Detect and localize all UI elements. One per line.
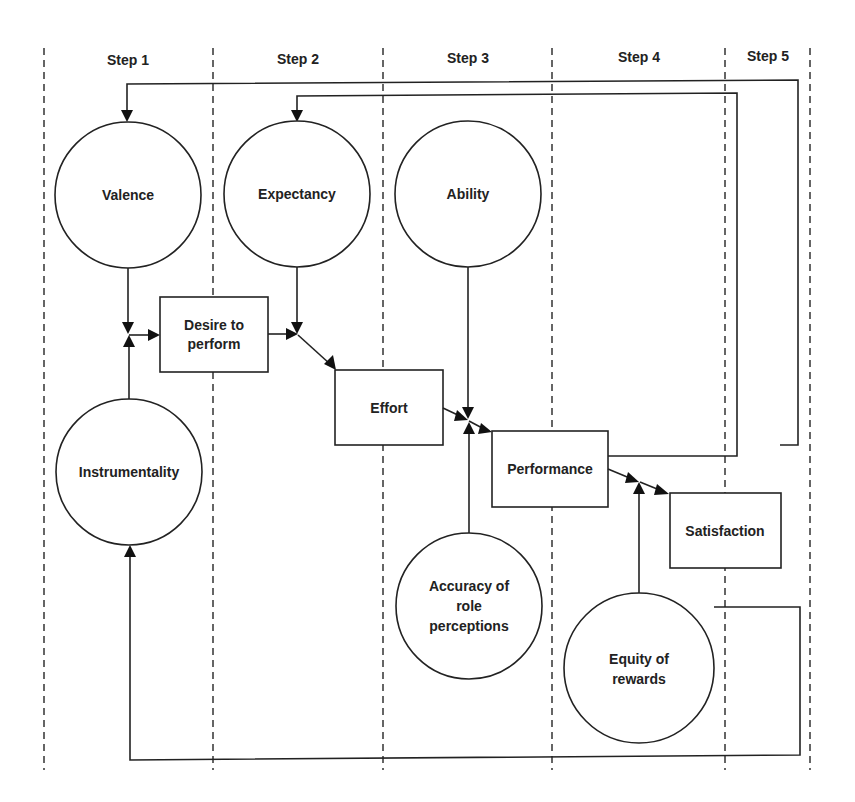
node-ability: Ability (395, 121, 541, 267)
node-desire-label-2: perform (188, 336, 241, 352)
node-expectancy: Expectancy (224, 121, 370, 267)
step-header-1: Step 1 (107, 52, 149, 68)
node-effort: Effort (335, 370, 443, 445)
node-desire-to-perform: Desire to perform (160, 297, 268, 372)
node-satisfaction: Satisfaction (670, 493, 781, 568)
arrowhead-icon (121, 110, 133, 122)
node-equity: Equity of rewards (564, 593, 714, 743)
step-header-4: Step 4 (618, 49, 660, 65)
node-desire-label-1: Desire to (184, 317, 244, 333)
arrowhead-icon (124, 545, 136, 557)
node-performance-label: Performance (507, 461, 593, 477)
arrowhead-icon (148, 329, 160, 341)
node-equity-label-2: rewards (612, 671, 666, 687)
arrowhead-icon (123, 335, 135, 347)
step-header-3: Step 3 (447, 50, 489, 66)
arrowhead-icon (291, 110, 303, 122)
arrowhead-icon (324, 355, 336, 370)
arrowhead-icon (122, 322, 134, 334)
arrowhead-icon (654, 484, 669, 495)
node-instrumentality: Instrumentality (56, 399, 202, 545)
node-valence: Valence (55, 122, 201, 268)
step-header-5: Step 5 (747, 48, 789, 64)
motivation-model-diagram: Step 1 Step 2 Step 3 Step 4 Step 5 Valen… (0, 0, 855, 802)
node-equity-label-1: Equity of (609, 651, 669, 667)
arrowhead-icon (478, 423, 492, 434)
node-satisfaction-label: Satisfaction (685, 523, 764, 539)
node-valence-label: Valence (102, 187, 154, 203)
node-accuracy: Accuracy of role perceptions (396, 533, 542, 679)
node-ability-label: Ability (447, 186, 490, 202)
node-accuracy-label-1: Accuracy of (429, 578, 509, 594)
node-instrumentality-label: Instrumentality (79, 464, 180, 480)
node-expectancy-label: Expectancy (258, 186, 336, 202)
node-accuracy-label-2: role (456, 598, 482, 614)
step-header-2: Step 2 (277, 51, 319, 67)
node-accuracy-label-3: perceptions (429, 618, 509, 634)
arrowhead-icon (625, 472, 639, 483)
node-effort-label: Effort (370, 400, 408, 416)
edge-junction-to-effort (298, 335, 330, 364)
node-performance: Performance (492, 431, 608, 507)
